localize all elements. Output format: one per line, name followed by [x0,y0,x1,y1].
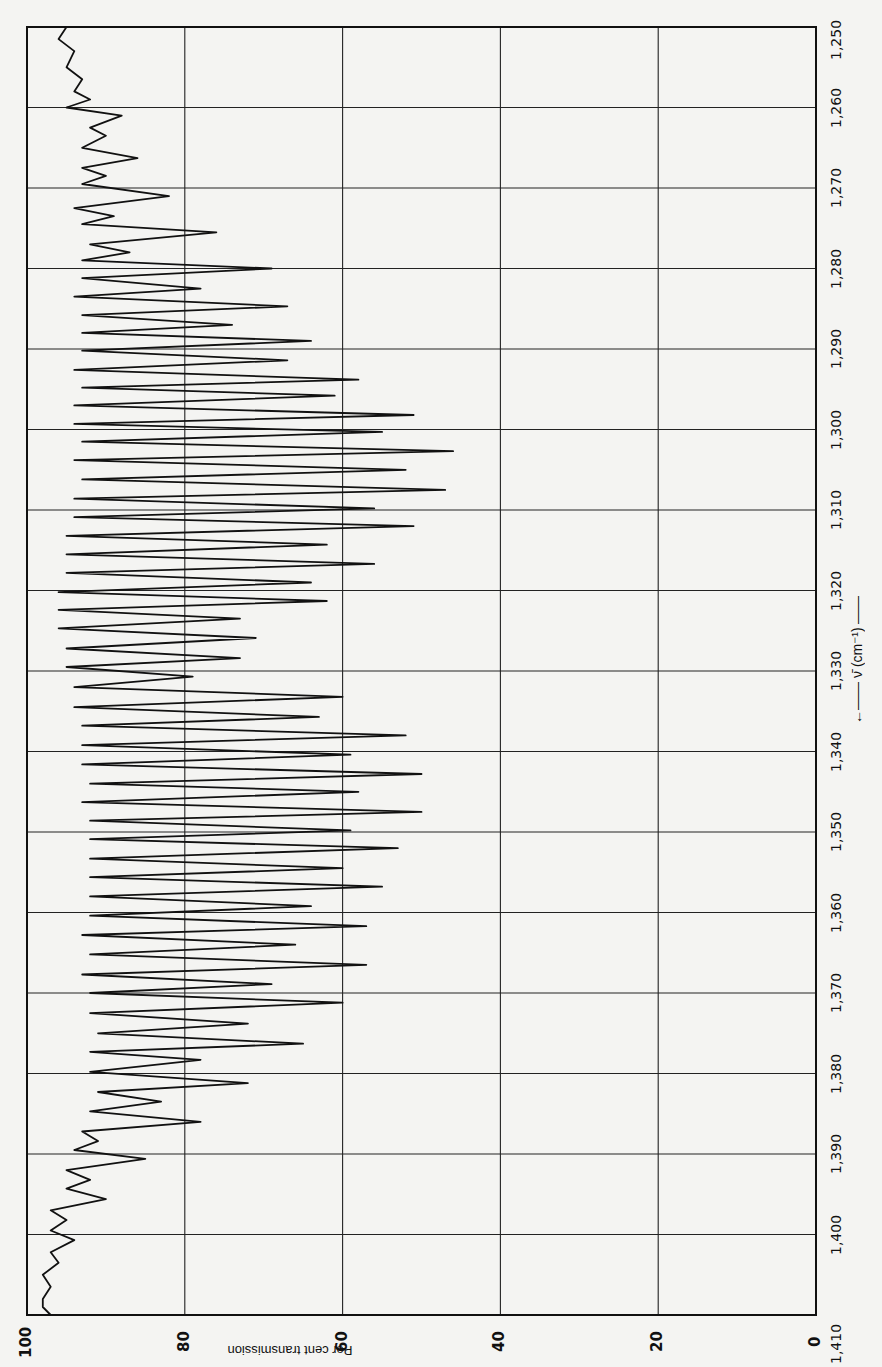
wavenumber-tick: 1,360 [826,888,846,938]
transmission-tick: 20 [648,1322,668,1362]
wavenumber-tick: 1,410 [826,1319,846,1367]
spectrum-chart [0,0,882,1367]
wavenumber-tick: 1,340 [826,727,846,777]
wavenumber-tick: 1,270 [826,163,846,213]
wavenumber-tick: 1,310 [826,485,846,535]
wavenumber-tick: 1,370 [826,968,846,1018]
wavenumber-tick: 1,290 [826,324,846,374]
wavenumber-tick: 1,260 [826,83,846,133]
x-axis-label: ←—— ν̄ (cm⁻¹) —— [846,590,868,730]
wavenumber-tick: 1,280 [826,244,846,294]
wavenumber-tick: 1,350 [826,807,846,857]
wavenumber-tick: 1,300 [826,405,846,455]
wavenumber-tick: 1,390 [826,1129,846,1179]
transmission-tick: 0 [806,1322,826,1362]
grid-lines [27,27,816,1315]
transmission-tick: 100 [17,1322,37,1362]
wavenumber-tick: 1,380 [826,1049,846,1099]
transmission-tick: 40 [490,1322,510,1362]
wavenumber-tick: 1,250 [826,15,846,65]
arrow-left-icon: ←—— [849,678,865,724]
wavenumber-tick: 1,320 [826,566,846,616]
y-axis-label: Per cent transmission [160,1338,420,1358]
wavenumber-tick: 1,400 [826,1210,846,1260]
wavenumber-tick: 1,330 [826,646,846,696]
